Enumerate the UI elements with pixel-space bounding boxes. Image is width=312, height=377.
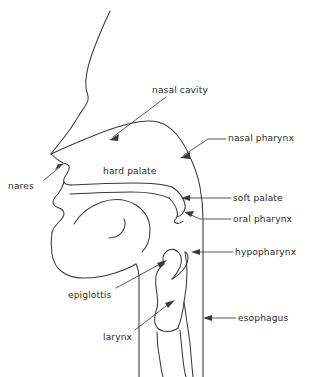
label-hypopharynx: hypopharynx [235,248,296,257]
label-oral-pharynx: oral pharynx [233,215,292,224]
posterior-wall-neck-contour [189,155,203,377]
label-hard-palate: hard palate [103,167,157,176]
arrowhead-soft-palate [181,195,190,201]
arrowhead-oral-pharynx [184,211,194,217]
soft-palate-upper [172,187,185,216]
arrowhead-nares [55,164,64,170]
leader-nares [44,167,60,180]
esophagus-anterior-line [184,302,193,377]
tongue-root-curl [109,219,125,238]
hard-palate-lower [70,192,169,198]
arrowhead-nasal-pharynx [180,152,190,159]
trachea-anterior-line [157,332,163,377]
label-nares: nares [8,182,34,191]
hard-palate-upper [71,183,172,187]
leader-nasal-cavity [113,97,166,137]
soft-palate-lower-uvula [169,198,183,223]
arrowhead-nasal-cavity [109,134,119,141]
arrowhead-esophagus [203,315,212,321]
trachea-posterior-line [180,330,186,377]
leader-oral-pharynx [189,214,231,219]
label-nasal-cavity: nasal cavity [152,86,208,95]
leader-larynx [135,303,170,330]
label-soft-palate: soft palate [233,194,283,203]
nares-notch [51,154,71,185]
tongue-body [74,200,150,252]
label-esophagus: esophagus [238,314,288,323]
arrowhead-larynx [165,300,175,308]
lips-profile [52,182,64,232]
leader-nasal-pharynx [184,139,226,155]
arrowhead-hypopharynx [191,249,200,255]
anatomy-diagram: nasal cavity nasal pharynx hard palate n… [0,0,312,377]
arrowhead-epiglottis [157,260,167,268]
neck-front-line [136,264,139,377]
label-larynx: larynx [103,333,132,342]
chin-jaw-contour [51,232,136,278]
label-epiglottis: epiglottis [68,291,111,300]
larynx-anterior-wall [155,264,178,331]
label-nasal-pharynx: nasal pharynx [228,134,294,143]
